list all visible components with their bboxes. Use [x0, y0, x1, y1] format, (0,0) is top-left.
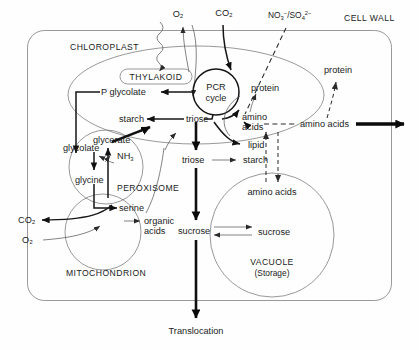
no3-main: NO: [268, 10, 281, 20]
diagram-labels: O₂ CO₂ NO3−/SO42− CELL WALL CHLOROPLAST …: [18, 8, 395, 336]
label-mitochondrion: MITOCHONDRION: [66, 268, 146, 278]
nh3-main: NH: [117, 151, 130, 161]
label-lipid: lipid: [248, 140, 264, 150]
so4-sup: 2−: [305, 10, 312, 16]
vacuole-exchange: [214, 132, 278, 235]
label-vacuole-storage: (Storage): [255, 268, 290, 278]
label-translocation: Translocation: [169, 326, 224, 336]
pcr-cycle-circle: [193, 69, 239, 115]
no3-sub: 3: [281, 15, 284, 21]
so4-sub: 4: [302, 15, 306, 21]
label-cell-wall: CELL WALL: [344, 13, 395, 23]
so4-slash: /SO: [287, 10, 302, 20]
label-co2-left: CO₂: [18, 215, 36, 225]
light-ray-squiggle: [157, 22, 163, 71]
label-amino-acids-line1: amino: [242, 112, 267, 122]
cytosol-nitrogen-flux: cytosol amino acids -->: [264, 82, 404, 124]
label-nh3: NH3: [117, 151, 134, 162]
nh3-release-arrow: [99, 156, 114, 163]
label-nitrate-sulfate: NO3−/SO42−: [268, 10, 312, 22]
o2-uptake-arrow: [43, 226, 100, 240]
label-pcr-cycle-line2: cycle: [206, 93, 227, 103]
label-vacuole: VACUOLE: [250, 257, 294, 267]
label-amino-acids-cytosol: amino acids: [300, 119, 349, 129]
organic-acids-to-cytosol-curve: [146, 148, 164, 213]
label-p-glycolate: P glycolate: [101, 87, 146, 97]
label-chloroplast: CHLOROPLAST: [70, 42, 139, 52]
label-triose-cytosol: triose: [182, 155, 204, 165]
label-o2-left: O₂: [22, 235, 33, 245]
label-thylakoid: THYLAKOID: [130, 72, 183, 82]
label-amino-acids-vacuole: amino acids: [247, 187, 296, 197]
pathway-diagram-root: cytosol amino acids --> O₂ CO₂ NO3−/SO42…: [0, 0, 419, 350]
label-amino-acids-line2: acids: [242, 122, 264, 132]
label-sucrose-cytosol: sucrose: [178, 226, 210, 236]
triose-to-lipid-arrow: [214, 122, 240, 144]
label-protein-cytosol: protein: [324, 65, 352, 75]
label-co2-top: CO₂: [215, 8, 233, 18]
label-peroxisome: PEROXISOME: [117, 183, 179, 193]
label-glycerate: glycerate: [93, 135, 130, 145]
label-serine: serine: [119, 203, 144, 213]
label-sucrose-vacuole: sucrose: [258, 227, 290, 237]
cell-metabolism-diagram: cytosol amino acids --> O₂ CO₂ NO3−/SO42…: [0, 0, 419, 350]
label-triose-chloroplast: triose: [186, 114, 208, 124]
nh3-sub: 3: [130, 156, 133, 162]
o2-evolution-arrow: [183, 27, 189, 72]
label-glycine: glycine: [75, 175, 104, 185]
label-organic-acids-line2: acids: [144, 226, 166, 236]
cytosol-amino-acids-to-protein-arrow: [327, 82, 336, 118]
label-organic-acids-line1: organic: [144, 216, 175, 226]
nitrate-sulfate-uptake-line: [245, 28, 286, 114]
label-protein-chloroplast: protein: [251, 83, 279, 93]
svg-text:NO3−/SO42−: NO3−/SO42−: [268, 10, 312, 22]
label-starch-chloroplast: starch: [119, 114, 144, 124]
cytosol-feedback-curve: [165, 133, 176, 150]
glycine-to-serine-path: [94, 184, 117, 208]
label-o2-top: O₂: [173, 9, 184, 19]
label-starch-cytosol: starch: [243, 155, 268, 165]
label-pcr-cycle-line1: PCR: [206, 82, 226, 92]
